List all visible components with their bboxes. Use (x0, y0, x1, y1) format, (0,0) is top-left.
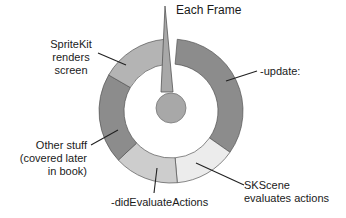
label-skscene-evaluates-actions: SKScene evaluates actions (244, 179, 329, 205)
segment-other-stuff (99, 75, 137, 160)
segment-spritekit-renders-screen (109, 39, 167, 87)
label-did-evaluate-actions: -didEvaluateActions (111, 196, 208, 209)
label-other-stuff: Other stuff (covered later in book) (18, 139, 87, 178)
segment-update (175, 39, 243, 152)
frame-pointer-icon (161, 6, 173, 92)
label-update: -update: (260, 65, 300, 78)
hub-circle (156, 93, 186, 123)
label-spritekit-renders-screen: SpriteKit renders screen (45, 38, 97, 77)
label-each-frame: Each Frame (176, 4, 241, 17)
